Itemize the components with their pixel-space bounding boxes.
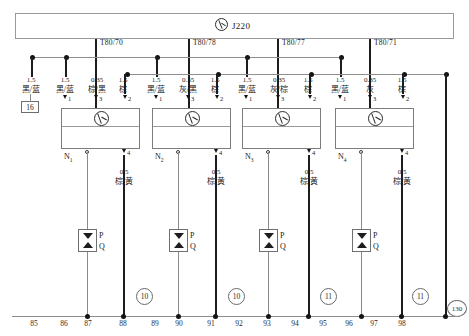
valve-2[interactable] — [169, 229, 188, 252]
axis-node-95 — [306, 314, 311, 319]
valve-3[interactable] — [259, 229, 278, 252]
injector-icon — [368, 111, 383, 126]
pin-arrow — [215, 95, 219, 99]
control-unit-title: J220 — [232, 21, 250, 31]
injector-icon — [94, 111, 109, 126]
valve-q-triangle-icon — [264, 242, 274, 248]
module-label-n3: N3 — [245, 152, 254, 163]
valve-2-labels: P Q — [190, 230, 196, 252]
axis-number: 91 — [203, 319, 219, 328]
valve-4-labels: P Q — [373, 230, 379, 252]
injector-module-4 — [335, 108, 414, 149]
control-unit-label: J220 — [215, 18, 250, 31]
axis-number: 97 — [366, 319, 382, 328]
valve-p-triangle-icon — [357, 233, 367, 239]
valve-p-triangle-icon — [174, 233, 184, 239]
axis-number: 93 — [259, 319, 275, 328]
ground-trunk-line — [445, 74, 447, 317]
bottom-axis-line — [12, 316, 460, 317]
m1-pin2-lead — [124, 74, 126, 94]
axis-number: 95 — [315, 319, 331, 328]
terminal-label-t80-78: T80/78 — [193, 38, 216, 47]
module-divider — [336, 126, 413, 127]
m2-pin2-lead — [216, 74, 218, 94]
circled-ref-11-a: 11 — [320, 288, 337, 305]
pin-arrow — [338, 95, 342, 99]
terminal-label-t80-77: T80/77 — [282, 38, 305, 47]
module-label-n1: N1 — [64, 152, 73, 163]
valve-1-labels: P Q — [99, 230, 105, 252]
pin-arrow — [307, 149, 311, 153]
pin-arrow — [154, 95, 158, 99]
axis-number: 94 — [287, 319, 303, 328]
pin-arrow — [368, 95, 372, 99]
pin-number-m4-3: 3 — [373, 95, 376, 102]
pin-arrow — [214, 149, 218, 153]
wire-label-m2-out: 0.5 棕/黄 — [195, 168, 237, 186]
terminal-label-t80-71: T80/71 — [374, 38, 397, 47]
wire-label-m2-pin2: 1.5 棕 — [201, 76, 229, 94]
feeder-line — [65, 57, 67, 77]
m4-pin2-lead — [402, 74, 404, 94]
m3-pin2-lead — [309, 74, 311, 94]
pin-number-m2-1: 1 — [159, 95, 162, 102]
injector-icon — [185, 111, 200, 126]
pin-number-m1-1: 1 — [68, 95, 71, 102]
wire-label-m3-pin2: 1.5 棕 — [294, 76, 322, 94]
pin-number-m3-4: 4 — [312, 149, 315, 156]
wire-label-m3-out: 0.5 棕/黄 — [288, 168, 330, 186]
injector-module-3 — [242, 108, 321, 149]
pin-arrow — [401, 95, 405, 99]
axis-number: 87 — [80, 319, 96, 328]
pin-number-m4-1: 1 — [343, 95, 346, 102]
axis-node-97 — [359, 314, 364, 319]
valve-3-labels: P Q — [280, 230, 286, 252]
axis-number: 96 — [341, 319, 357, 328]
module-label-n4: N4 — [338, 152, 347, 163]
circled-ref-130: 130 — [447, 300, 467, 317]
pin-number-m3-1: 1 — [249, 95, 252, 102]
ground-box-stem — [30, 94, 31, 102]
pin-arrow — [244, 95, 248, 99]
wiring-diagram: J220 T80/70 T80/78 T80/77 T80/71 1.5 黑/蓝… — [0, 0, 469, 336]
pin-arrow — [400, 149, 404, 153]
power-bus-upper — [32, 57, 342, 58]
pin-number-m1-4: 4 — [127, 149, 130, 156]
axis-number: 89 — [147, 319, 163, 328]
axis-number: 98 — [394, 319, 410, 328]
pin-number-m3-2: 2 — [313, 95, 316, 102]
valve-1[interactable] — [78, 229, 97, 252]
pin-arrow — [94, 95, 98, 99]
valve-p-triangle-icon — [264, 233, 274, 239]
axis-number: 86 — [56, 319, 72, 328]
circled-ref-10-b: 10 — [228, 288, 245, 305]
wire-label-m1-out: 0.5 棕/黄 — [103, 168, 145, 186]
injector-icon — [275, 111, 290, 126]
axis-number: 90 — [171, 319, 187, 328]
module-label-n2: N2 — [155, 152, 164, 163]
valve-q-triangle-icon — [174, 242, 184, 248]
control-unit-icon — [215, 18, 228, 31]
axis-number: 88 — [115, 319, 131, 328]
pin-arrow — [308, 95, 312, 99]
pin-number-m2-3: 3 — [191, 95, 194, 102]
valve-q-triangle-icon — [83, 242, 93, 248]
axis-node-right — [443, 314, 448, 319]
valve-4[interactable] — [352, 229, 371, 252]
pin-number-m4-2: 2 — [406, 95, 409, 102]
axis-number: 85 — [26, 319, 42, 328]
pin-arrow — [276, 95, 280, 99]
pin-arrow — [186, 95, 190, 99]
pin-number-m4-4: 4 — [405, 149, 408, 156]
wire-label-m4-pin3: 0.35 灰 — [353, 76, 387, 94]
injector-module-1 — [61, 108, 140, 149]
circled-ref-11-b: 11 — [412, 288, 429, 305]
pin-arrow — [123, 95, 127, 99]
pin-number-m2-2: 2 — [220, 95, 223, 102]
circled-ref-10-a: 10 — [136, 288, 153, 305]
wire-label-m4-out: 0.5 棕/黄 — [381, 168, 423, 186]
valve-p-triangle-icon — [83, 233, 93, 239]
ground-box-16: 16 — [21, 101, 39, 113]
pin-arrow — [63, 95, 67, 99]
pin-arrow — [122, 149, 126, 153]
